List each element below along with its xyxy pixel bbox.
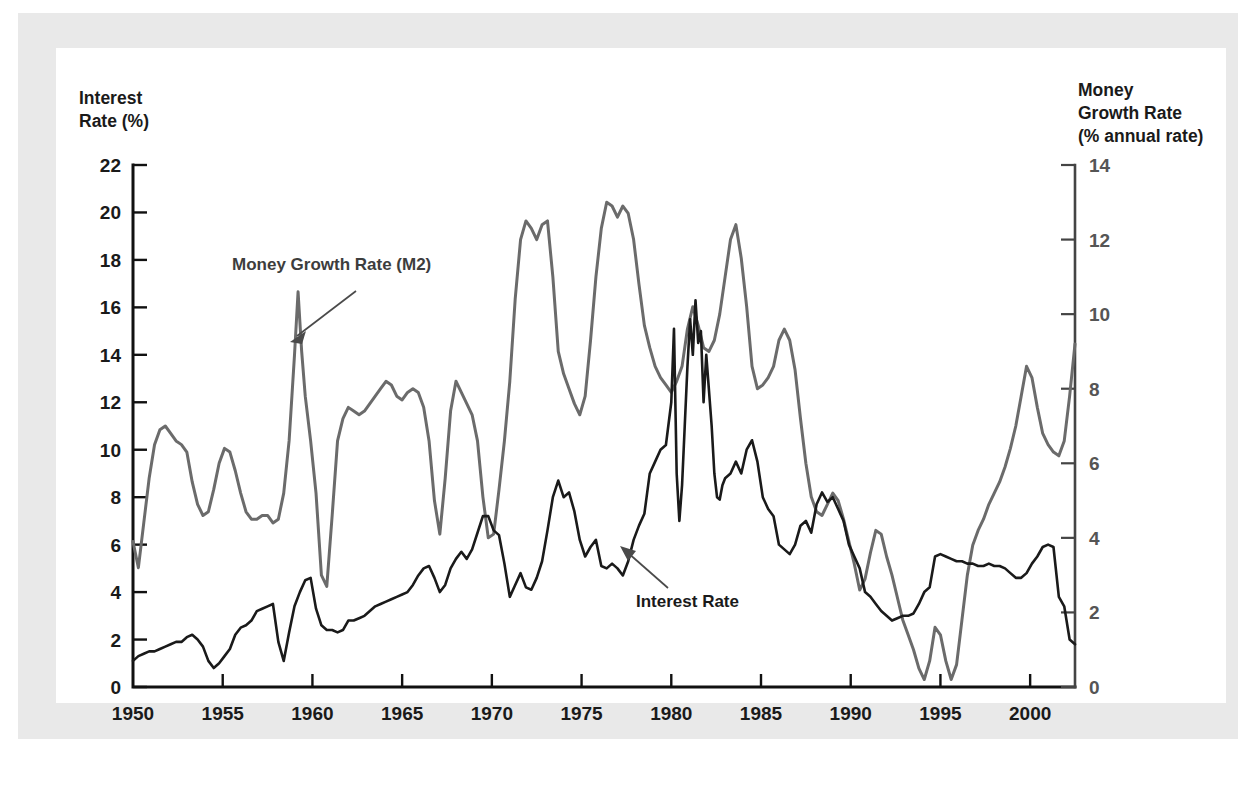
annotation-money-growth: Money Growth Rate (M2) xyxy=(232,255,431,344)
money-growth-interest-rate-chart: Interest Rate (%) Money Growth Rate (% a… xyxy=(0,0,1256,793)
annotation-money-growth-arrow-head xyxy=(290,331,306,344)
right-axis-tick-label: 4 xyxy=(1089,528,1100,549)
left-axis-tick-label: 0 xyxy=(110,677,121,698)
interest-rate-series xyxy=(133,300,1075,668)
annotation-interest-rate-label: Interest Rate xyxy=(636,592,739,611)
left-axis-tick-label: 14 xyxy=(100,345,122,366)
right-axis-tick-label: 2 xyxy=(1089,602,1100,623)
x-axis-tick-label: 1960 xyxy=(291,703,333,724)
annotation-money-growth-label: Money Growth Rate (M2) xyxy=(232,255,431,274)
x-axis-tick-label: 1995 xyxy=(919,703,962,724)
annotation-interest-rate: Interest Rate xyxy=(620,546,739,611)
left-axis-title-line2: Rate (%) xyxy=(79,111,149,131)
left-axis-tick-label: 16 xyxy=(100,297,121,318)
right-axis-title-line2: Growth Rate xyxy=(1078,103,1182,123)
left-axis-tick-label: 10 xyxy=(100,440,121,461)
x-axis-tick-label: 1955 xyxy=(202,703,245,724)
right-axis-tick-label: 8 xyxy=(1089,379,1100,400)
x-axis-tick-label: 1970 xyxy=(471,703,513,724)
right-axis-tick-label: 10 xyxy=(1089,304,1110,325)
left-axis-title-line1: Interest xyxy=(79,88,142,108)
figure-frame: Interest Rate (%) Money Growth Rate (% a… xyxy=(0,0,1256,793)
right-axis-tick-label: 12 xyxy=(1089,230,1110,251)
left-axis-tick-label: 8 xyxy=(110,487,121,508)
right-axis-title-line3: (% annual rate) xyxy=(1078,126,1203,146)
x-axis-tick-label: 1980 xyxy=(650,703,692,724)
left-axis-tick-label: 2 xyxy=(110,630,121,651)
right-axis-title-line1: Money xyxy=(1078,80,1134,100)
left-axis-tick-label: 22 xyxy=(100,155,121,176)
x-axis-tick-label: 1975 xyxy=(560,703,603,724)
x-axis-tick-label: 1950 xyxy=(112,703,154,724)
right-axis-tick-label: 14 xyxy=(1089,155,1111,176)
x-axis-tick-label: 1985 xyxy=(740,703,783,724)
right-axis-tick-label: 0 xyxy=(1089,677,1100,698)
left-axis-tick-label: 6 xyxy=(110,535,121,556)
left-axis-tick-label: 4 xyxy=(110,582,121,603)
left-axis-tick-label: 12 xyxy=(100,392,121,413)
left-axis-tick-label: 18 xyxy=(100,250,121,271)
annotation-money-growth-arrow-line xyxy=(297,291,356,336)
right-axis-tick-label: 6 xyxy=(1089,453,1100,474)
left-axis-tick-label: 20 xyxy=(100,202,121,223)
x-axis-tick-label: 1965 xyxy=(381,703,424,724)
annotation-interest-rate-arrow-line xyxy=(627,552,668,588)
x-axis-tick-label: 2000 xyxy=(1009,703,1051,724)
x-axis-tick-label: 1990 xyxy=(830,703,872,724)
